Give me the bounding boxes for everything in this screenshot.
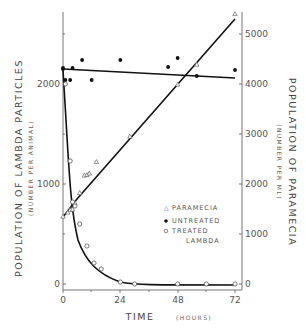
untreated-point <box>195 74 199 78</box>
chart-figure: 0 24 48 72 0 1000 2000 0 1000 2000 3000 … <box>0 0 306 334</box>
x-tick: 24 <box>114 295 126 305</box>
y-right-tick: 4000 <box>245 79 268 89</box>
y-left-unit: (NUMBER PER ANIMAL) <box>27 120 34 216</box>
y-right-tick: 1000 <box>245 229 268 239</box>
paramecia-fit-line <box>63 19 235 217</box>
x-axis-unit: (HOURS) <box>176 314 212 321</box>
paramecia-point <box>94 160 98 164</box>
treated-lambda-point <box>73 204 77 208</box>
legend-label: LAMBDA <box>186 237 220 245</box>
y-right-tick: 3000 <box>245 129 268 139</box>
right-axis-title: POPULATION OF PARAMECIA (NUMBER PER ML) <box>276 78 298 246</box>
x-tick: 72 <box>229 295 240 305</box>
untreated-point <box>118 58 122 62</box>
untreated-fit-line <box>63 69 235 78</box>
x-axis-label: TIME <box>125 311 155 322</box>
axes <box>63 12 242 293</box>
paramecia-point <box>78 191 82 195</box>
untreated-point <box>166 65 170 69</box>
right-tick-labels: 0 1000 2000 3000 4000 5000 <box>245 29 268 289</box>
treated-lambda-point <box>92 261 96 265</box>
treated-lambda-point <box>70 200 74 204</box>
untreated-point <box>63 78 67 82</box>
paramecia-point <box>233 12 237 16</box>
treated-lambda-point <box>233 282 237 286</box>
legend-triangle-icon: △ <box>164 204 169 211</box>
treated-lambda-point <box>78 222 82 226</box>
treated-lambda-fit-curve <box>63 70 235 285</box>
x-tick: 48 <box>172 295 184 305</box>
treated-lambda-point <box>63 82 67 86</box>
y-right-tick: 5000 <box>245 29 268 39</box>
untreated-point <box>61 66 65 70</box>
untreated-point <box>80 58 84 62</box>
y-right-unit: (NUMBER PER ML) <box>276 124 283 200</box>
treated-lambda-point <box>176 282 180 286</box>
untreated-point <box>90 78 94 82</box>
y-right-label: POPULATION OF PARAMECIA <box>287 78 298 246</box>
y-left-tick: 2000 <box>37 79 60 89</box>
treated-lambda-point <box>99 267 103 271</box>
legend: △ PARAMECIA UNTREATED TREATED LAMBDA <box>164 204 220 245</box>
legend-label: TREATED <box>171 227 209 235</box>
y-left-tick: 1000 <box>37 179 60 189</box>
y-left-tick: 0 <box>54 279 60 289</box>
untreated-point <box>176 56 180 60</box>
legend-label: UNTREATED <box>172 217 220 225</box>
treated-lambda-point <box>204 282 208 286</box>
y-right-tick: 2000 <box>245 179 268 189</box>
x-tick-labels: 0 24 48 72 <box>60 295 241 305</box>
paramecia-point <box>87 171 91 175</box>
legend-filled-circle-icon <box>164 219 168 223</box>
y-left-label: POPULATION OF LAMBDA PARTICLES <box>13 59 24 277</box>
treated-lambda-point <box>85 244 89 248</box>
left-axis-title: POPULATION OF LAMBDA PARTICLES (NUMBER P… <box>13 59 34 277</box>
left-tick-labels: 0 1000 2000 <box>37 79 60 289</box>
treated-lambda-point <box>118 280 122 284</box>
treated-lambda-point <box>133 282 137 286</box>
y-right-tick: 0 <box>245 279 251 289</box>
legend-open-circle-icon <box>164 229 168 233</box>
legend-label: PARAMECIA <box>172 204 218 212</box>
treated-lambda-point <box>68 159 72 163</box>
x-axis-title: TIME (HOURS) <box>125 311 213 322</box>
untreated-point <box>68 78 72 82</box>
untreated-point <box>233 68 237 72</box>
untreated-point <box>71 66 75 70</box>
x-tick: 0 <box>60 295 66 305</box>
